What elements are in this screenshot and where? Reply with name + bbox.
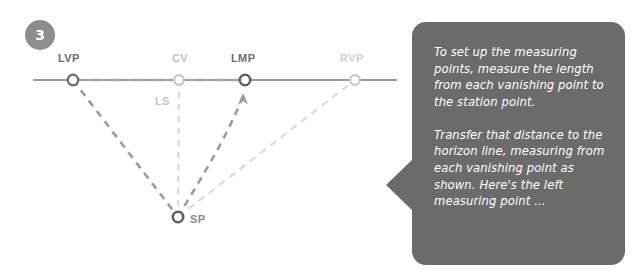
screenshot-root: 3 LVP CV LMP RVP LS SP To set up the mea… — [0, 0, 640, 280]
instruction-callout: To set up the measuring points, measure … — [412, 22, 625, 265]
point-sp[interactable] — [173, 212, 183, 222]
label-lmp: LMP — [231, 52, 255, 64]
point-lvp[interactable] — [68, 75, 78, 85]
callout-paragraph-2: Transfer that distance to the horizon li… — [434, 127, 605, 210]
perspective-diagram: 3 LVP CV LMP RVP LS SP — [0, 0, 410, 280]
callout-tail — [386, 158, 414, 212]
step-number-badge: 3 — [25, 20, 55, 50]
point-rvp[interactable] — [350, 75, 360, 85]
measure-direction-arrow-icon — [238, 93, 248, 105]
diagram-canvas — [0, 0, 410, 280]
guide-line-sp-lmp — [178, 96, 243, 217]
callout-paragraph-1: To set up the measuring points, measure … — [434, 44, 605, 110]
label-sp: SP — [190, 213, 205, 225]
label-ls: LS — [155, 95, 170, 107]
guide-line-sp-rvp — [178, 80, 355, 217]
label-lvp: LVP — [58, 52, 80, 64]
point-lmp[interactable] — [240, 75, 250, 85]
label-cv: CV — [172, 52, 188, 64]
guide-line-cv-sp — [178, 80, 179, 217]
label-rvp: RVP — [340, 52, 364, 64]
point-cv[interactable] — [174, 75, 184, 85]
